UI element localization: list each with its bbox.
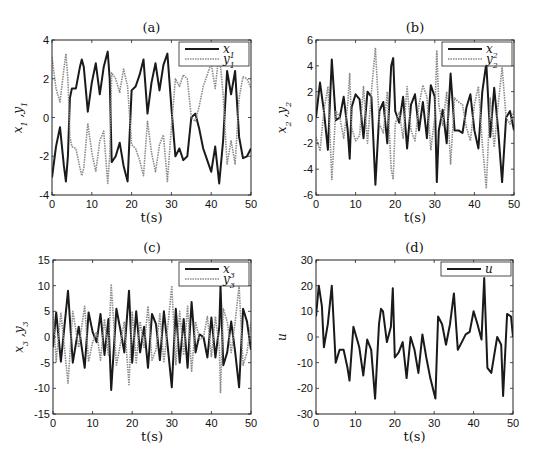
- x-axis-label: t(s): [404, 210, 426, 225]
- x-tick-label: 0: [313, 417, 319, 429]
- legend-entry-u: u: [485, 262, 493, 276]
- y-tick-label: 4: [43, 34, 49, 46]
- y-tick-label: -2: [39, 150, 49, 162]
- figure: 01020304050-4-2024(a)t(s)x1 ,y1x1y101020…: [0, 0, 539, 466]
- x-tick-label: 40: [468, 198, 480, 210]
- y-tick-label: -20: [297, 382, 313, 394]
- subplot-title: (b): [406, 20, 424, 35]
- y-tick-label: 10: [301, 305, 313, 317]
- x-tick-label: 30: [165, 198, 177, 210]
- y-tick-label: -4: [39, 189, 49, 201]
- x-tick-label: 40: [467, 417, 479, 429]
- x-tick-label: 0: [313, 198, 319, 210]
- subplot-title: (d): [405, 240, 423, 255]
- x-tick-label: 20: [389, 198, 401, 210]
- subplot-d: 01020304050-30-20-100102030(d)t(s)uu: [275, 240, 519, 444]
- y-axis-label: x3 ,y3: [12, 321, 30, 352]
- y-tick-label: 0: [44, 331, 50, 343]
- subplot-a: 01020304050-4-2024(a)t(s)x1 ,y1x1y1: [11, 20, 257, 225]
- x-tick-label: 20: [125, 198, 137, 210]
- series-u: [316, 278, 513, 399]
- y-axis-label: x1 ,y1: [11, 102, 29, 133]
- y-tick-label: -30: [297, 408, 313, 420]
- y-tick-label: 10: [38, 280, 50, 292]
- legend: x2y2: [442, 42, 512, 70]
- x-axis-label: t(s): [140, 210, 162, 225]
- y-tick-label: -6: [303, 189, 313, 201]
- y-tick-label: 5: [44, 305, 50, 317]
- x-tick-label: 50: [245, 198, 257, 210]
- legend: x3y3: [179, 262, 249, 290]
- x-tick-label: 10: [349, 417, 361, 429]
- legend: x1y1: [179, 42, 249, 70]
- x-tick-label: 30: [166, 417, 178, 429]
- y-tick-label: 0: [307, 331, 313, 343]
- x-tick-label: 50: [507, 417, 519, 429]
- x-tick-label: 10: [86, 417, 98, 429]
- x-tick-label: 0: [49, 198, 55, 210]
- x-axis-label: t(s): [141, 429, 163, 444]
- y-tick-label: 0: [307, 112, 313, 124]
- y-axis-label: x2 ,y2: [275, 102, 293, 133]
- x-tick-label: 10: [349, 198, 361, 210]
- y-tick-label: 15: [38, 254, 50, 266]
- x-tick-label: 0: [50, 417, 56, 429]
- series-x2: [316, 58, 514, 185]
- x-tick-label: 50: [508, 198, 520, 210]
- x-tick-label: 40: [205, 417, 217, 429]
- y-tick-label: 4: [307, 60, 313, 72]
- y-axis-label: u: [275, 333, 289, 341]
- y-tick-label: -15: [34, 408, 50, 420]
- series-y2: [316, 48, 514, 189]
- subplot-title: (c): [143, 240, 160, 255]
- x-axis-label: t(s): [403, 429, 425, 444]
- legend: u: [441, 262, 511, 276]
- y-tick-label: 6: [307, 34, 313, 46]
- x-tick-label: 20: [126, 417, 138, 429]
- y-tick-label: 20: [301, 280, 313, 292]
- y-tick-label: -5: [40, 357, 50, 369]
- x-tick-label: 30: [428, 417, 440, 429]
- x-tick-label: 50: [245, 417, 257, 429]
- y-tick-label: 2: [307, 86, 313, 98]
- x-tick-label: 10: [86, 198, 98, 210]
- subplot-c: 01020304050-15-10-5051015(c)t(s)x3 ,y3x3…: [12, 240, 257, 444]
- y-tick-label: 30: [301, 254, 313, 266]
- x-tick-label: 20: [389, 417, 401, 429]
- y-tick-label: -4: [303, 163, 313, 175]
- x-tick-label: 30: [429, 198, 441, 210]
- subplot-b: 01020304050-6-4-20246(b)t(s)x2 ,y2x2y2: [275, 20, 520, 225]
- y-tick-label: -2: [303, 137, 313, 149]
- y-tick-label: -10: [34, 382, 50, 394]
- subplot-title: (a): [143, 20, 161, 35]
- y-tick-label: -10: [297, 357, 313, 369]
- y-tick-label: 0: [43, 112, 49, 124]
- y-tick-label: 2: [43, 73, 49, 85]
- x-tick-label: 40: [205, 198, 217, 210]
